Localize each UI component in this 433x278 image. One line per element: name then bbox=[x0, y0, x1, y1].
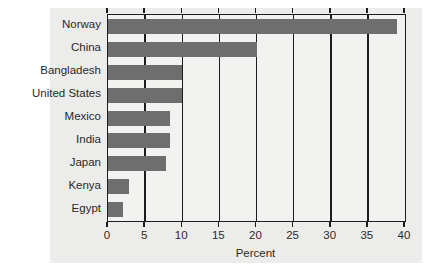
x-tick-mark bbox=[366, 222, 368, 227]
x-tick-mark-top bbox=[255, 8, 257, 13]
x-tick-label: 10 bbox=[161, 230, 201, 242]
gridline-35 bbox=[367, 15, 369, 221]
x-tick-mark bbox=[403, 222, 405, 227]
x-tick-mark-top bbox=[106, 8, 108, 13]
x-tick-mark bbox=[218, 222, 220, 227]
x-tick-label: 40 bbox=[384, 230, 424, 242]
x-tick-mark bbox=[292, 222, 294, 227]
bar bbox=[108, 111, 170, 126]
x-tick-label: 5 bbox=[124, 230, 164, 242]
y-axis-label: China bbox=[71, 42, 101, 54]
x-tick-label: 0 bbox=[87, 230, 127, 242]
bar-chart-figure: NorwayChinaBangladeshUnited StatesMexico… bbox=[0, 0, 433, 278]
x-axis-title: Percent bbox=[107, 248, 404, 260]
y-axis-label: Kenya bbox=[68, 180, 101, 192]
y-axis-label: Norway bbox=[62, 19, 101, 31]
x-tick-label: 15 bbox=[198, 230, 238, 242]
bar bbox=[108, 202, 123, 217]
gridline-30 bbox=[330, 15, 332, 221]
bar bbox=[108, 179, 129, 194]
bar bbox=[108, 133, 170, 148]
x-tick-mark-top bbox=[403, 8, 405, 13]
y-axis-label: Mexico bbox=[65, 111, 101, 123]
y-axis-label: Egypt bbox=[72, 203, 101, 215]
bar bbox=[108, 42, 257, 57]
x-tick-mark bbox=[255, 222, 257, 227]
bar bbox=[108, 65, 182, 80]
x-tick-mark bbox=[181, 222, 183, 227]
x-tick-mark-top bbox=[366, 8, 368, 13]
x-tick-mark-top bbox=[181, 8, 183, 13]
plot-area bbox=[107, 14, 406, 222]
x-tick-mark bbox=[143, 222, 145, 227]
bar bbox=[108, 88, 182, 103]
y-axis-label: India bbox=[76, 134, 101, 146]
x-tick-mark-top bbox=[292, 8, 294, 13]
x-tick-mark bbox=[106, 222, 108, 227]
x-tick-label: 25 bbox=[273, 230, 313, 242]
x-tick-mark-top bbox=[218, 8, 220, 13]
y-axis-label: Bangladesh bbox=[40, 65, 101, 77]
x-tick-mark-top bbox=[143, 8, 145, 13]
x-tick-label: 35 bbox=[347, 230, 387, 242]
bar bbox=[108, 19, 397, 34]
x-tick-mark-top bbox=[329, 8, 331, 13]
x-tick-label: 30 bbox=[310, 230, 350, 242]
y-axis-label: Japan bbox=[70, 157, 101, 169]
x-tick-label: 20 bbox=[236, 230, 276, 242]
bar bbox=[108, 156, 166, 171]
gridline-25 bbox=[293, 15, 295, 221]
y-axis-label: United States bbox=[32, 88, 101, 100]
y-axis-category-labels: NorwayChinaBangladeshUnited StatesMexico… bbox=[0, 14, 101, 220]
x-tick-mark bbox=[329, 222, 331, 227]
